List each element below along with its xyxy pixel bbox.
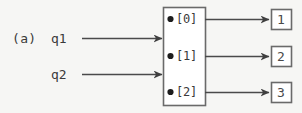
sink-label-1: 1 <box>277 13 285 26</box>
sink-label-2: 2 <box>277 50 285 63</box>
port-label-2: [2] <box>176 86 197 98</box>
port-label-1: [1] <box>176 50 197 62</box>
figure-canvas: (a) q1 q2 [0] [1] [2] 1 2 3 <box>0 0 302 113</box>
bullet-icon-port-0 <box>167 16 173 22</box>
sink-label-3: 3 <box>277 86 285 99</box>
bullet-icon-port-1 <box>167 53 173 59</box>
input-label-q2: q2 <box>51 68 67 81</box>
panel-label: (a) <box>12 32 36 45</box>
input-label-q1: q1 <box>51 32 67 45</box>
diagram-vector-layer <box>0 0 302 113</box>
port-label-0: [0] <box>176 13 197 25</box>
bullet-icon-port-2 <box>167 89 173 95</box>
